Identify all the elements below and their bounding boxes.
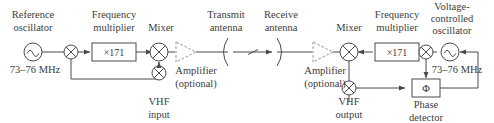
frequency-multiplier-tx-label-line1: Frequency — [92, 9, 137, 20]
vhf-input-label-line1: VHF — [148, 96, 169, 107]
transmit-antenna-label-line2: antenna — [210, 22, 243, 33]
receive-antenna-label-line1: Receive — [264, 9, 298, 20]
frequency-multiplier-rx-value: ×171 — [387, 47, 408, 58]
vco-icon — [441, 43, 459, 61]
frequency-multiplier-rx-label-line2: multiplier — [376, 22, 418, 33]
amplifier-rx-icon — [313, 42, 333, 62]
mixer-tx-label: Mixer — [148, 22, 174, 33]
vco-frequency: 73–76 MHz — [432, 64, 483, 75]
vhf-output-label-line1: VHF — [338, 96, 359, 107]
reference-oscillator-label-line1: Reference — [12, 9, 55, 20]
schematic-canvas: ×171 ×171 — [0, 0, 494, 123]
amplifier-tx-label-line1: Amplifier — [175, 65, 217, 76]
vco-label-line2: controlled — [431, 13, 474, 24]
reference-oscillator-frequency: 73–76 MHz — [10, 64, 61, 75]
vco-label-line3: oscillator — [432, 25, 472, 36]
vhf-output-label-line2: output — [336, 109, 363, 120]
frequency-multiplier-rx-label-line1: Frequency — [375, 9, 420, 20]
reference-oscillator-icon — [24, 43, 42, 61]
phase-detector-symbol: Φ — [422, 83, 430, 94]
frequency-multiplier-tx-value: ×171 — [104, 47, 125, 58]
vhf-input-label-line2: input — [148, 109, 170, 120]
vco-label-line1: Voltage- — [434, 1, 470, 12]
reference-oscillator-label-line2: oscillator — [13, 22, 53, 33]
receive-antenna-label-line2: antenna — [265, 22, 298, 33]
phase-detector-label-line1: Phase — [414, 99, 439, 110]
block-diagram: ×171 ×171 — [0, 0, 494, 123]
transmit-antenna-label-line1: Transmit — [207, 9, 245, 20]
frequency-multiplier-tx-label-line2: multiplier — [93, 22, 135, 33]
amplifier-rx-label-line1: Amplifier — [304, 65, 346, 76]
amplifier-tx-icon — [176, 42, 196, 62]
phase-detector-label-line2: detector — [409, 112, 443, 123]
wire-summer-bottom-rail — [71, 59, 159, 79]
amplifier-rx-label-line2: (optional) — [304, 78, 346, 90]
mixer-rx-label: Mixer — [336, 22, 362, 33]
amplifier-tx-label-line2: (optional) — [175, 78, 217, 90]
